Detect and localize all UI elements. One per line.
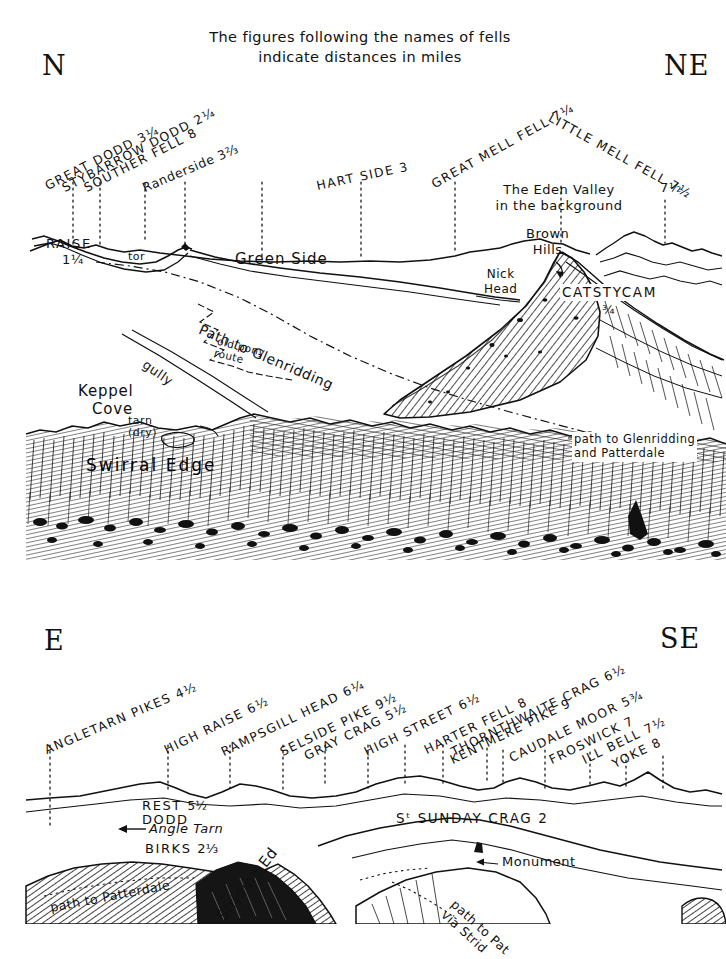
note-eden-valley: The Eden Valley in the background — [484, 182, 634, 215]
caption: The figures following the names of fells… — [160, 28, 560, 67]
compass-e: E — [44, 625, 65, 656]
note-swirral-edge: Swirral Edge — [86, 455, 216, 476]
compass-se: SE — [660, 623, 700, 654]
note-birks: BIRKS 2⅓ — [145, 841, 218, 857]
note-little-mell-fell-distance: 7½ — [660, 180, 682, 196]
compass-n: N — [42, 50, 67, 81]
note-path-glenridding-patterdale: path to Glenridding and Patterdale — [572, 432, 697, 462]
caption-line-1: The figures following the names of fells — [160, 28, 560, 48]
note-nick-head: Nick Head — [484, 267, 517, 297]
note-catstycam-distance: ¾ — [602, 302, 615, 318]
note-angle-tarn: Angle Tarn — [149, 821, 223, 837]
caption-line-2: indicate distances in miles — [160, 48, 560, 68]
note-tarn-dry: tarn (dry) — [128, 415, 157, 439]
note-green-side: Green Side — [235, 250, 328, 269]
note-catstycam: CATSTYCAM — [560, 284, 659, 301]
note-keppel-cove: Keppel Cove — [78, 382, 134, 418]
note-raise-distance: 1¼ — [62, 252, 84, 268]
note-st-sunday-crag: Sᵗ SUNDAY CRAG 2 — [396, 810, 548, 827]
note-tor: tor — [128, 250, 145, 264]
note-brown-hills: Brown Hills — [526, 226, 569, 259]
note-raise: RAISE — [46, 236, 92, 252]
compass-ne: NE — [664, 50, 709, 81]
note-monument: Monument — [502, 854, 576, 870]
